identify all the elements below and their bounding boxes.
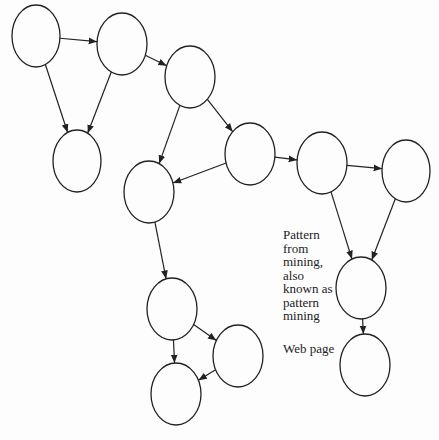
- edge-arrow: [194, 324, 217, 340]
- edge-arrow: [60, 38, 97, 41]
- graph-node: [297, 132, 347, 194]
- label-line: from: [283, 242, 332, 256]
- label-line: pattern: [283, 296, 332, 310]
- edge-arrow: [155, 222, 166, 279]
- edge-arrow: [198, 370, 215, 381]
- graph-node: [340, 334, 390, 396]
- diagram-canvas: Pattern from mining, also known as patte…: [0, 0, 439, 440]
- graph-node: [165, 46, 215, 108]
- graph-node: [382, 140, 430, 202]
- edge-group: [45, 38, 395, 380]
- edge-arrow: [275, 157, 297, 160]
- graph-node: [336, 257, 386, 319]
- edge-arrow: [363, 319, 364, 334]
- graph-node: [124, 161, 174, 223]
- label-line: known as: [283, 282, 332, 296]
- label-line: also: [283, 269, 332, 283]
- edge-arrow: [145, 55, 166, 65]
- pattern-mining-label: Pattern from mining, also known as patte…: [283, 228, 332, 323]
- edge-arrow: [173, 163, 226, 183]
- label-line: Pattern: [283, 228, 332, 242]
- edge-arrow: [159, 105, 180, 163]
- edge-arrow: [331, 192, 352, 259]
- graph-node: [151, 363, 201, 425]
- graph-node: [53, 130, 101, 192]
- edge-arrow: [45, 65, 67, 133]
- label-line: mining: [283, 309, 332, 323]
- edge-arrow: [372, 199, 396, 260]
- graph-node: [213, 325, 263, 387]
- graph-node: [147, 278, 197, 340]
- graph-node: [225, 123, 275, 185]
- edge-arrow: [88, 72, 112, 133]
- graph-node: [12, 5, 60, 67]
- node-group: [12, 5, 430, 425]
- label-line: mining,: [283, 255, 332, 269]
- graph-svg: [0, 0, 439, 440]
- edge-arrow: [347, 165, 382, 168]
- edge-arrow: [207, 99, 232, 131]
- graph-node: [97, 13, 147, 75]
- edge-arrow: [173, 340, 174, 363]
- web-page-label: Web page: [283, 342, 334, 356]
